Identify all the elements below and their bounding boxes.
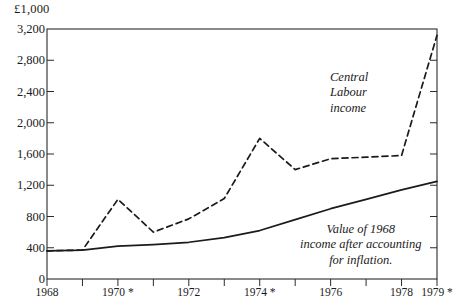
series-label-real-value: Value of 1968 income after accounting fo… xyxy=(300,222,422,268)
x-axis-tick-label: 1970 * xyxy=(102,286,134,298)
x-axis-tick-label: 1968 xyxy=(36,286,59,298)
x-axis-tick-label: 1976 xyxy=(319,286,342,298)
x-axis-tick-label: 1978 xyxy=(390,286,413,298)
series-label-central-labour-income: Central Labour income xyxy=(330,70,368,116)
chart-container: £1,000 04008001,2001,6002,0002,4002,8003… xyxy=(0,0,462,308)
series-line-central-labour-income xyxy=(47,35,437,251)
x-axis-tick-label: 1974 * xyxy=(244,286,276,298)
x-axis-tick-label: 1972 xyxy=(177,286,200,298)
x-axis-tick-label: 1979 * xyxy=(421,286,453,298)
